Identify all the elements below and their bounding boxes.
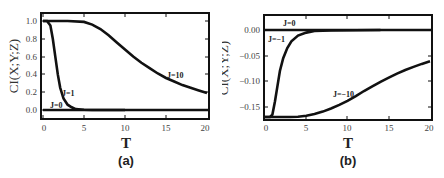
svg-text:20: 20 — [201, 123, 211, 133]
curve-j1-a — [43, 21, 125, 110]
panel-caption-a: (a) — [118, 153, 134, 168]
svg-text:0.00: 0.00 — [244, 25, 260, 35]
y-ticks-a: 1.0 0.8 0.6 0.4 0.2 0.0 — [26, 16, 38, 115]
x-ticks-a: 0 5 10 15 20 — [42, 123, 210, 133]
label-j1-a: J=1 — [62, 89, 75, 98]
svg-text:0.6: 0.6 — [26, 52, 38, 62]
label-jm1-b: J=−1 — [268, 35, 285, 44]
y-axis-label-b: CI(X;Y;Z) — [222, 41, 231, 95]
svg-text:0: 0 — [264, 123, 269, 133]
svg-text:10: 10 — [121, 123, 131, 133]
y-ticks-b: 0.00 −0.05 −0.10 −0.15 — [239, 25, 260, 112]
label-j0-a: J=0 — [50, 101, 63, 110]
chart-panel-b: CI(X;Y;Z) 0.00 −0.05 −0.10 −0.15 0 5 10 … — [222, 0, 444, 178]
y-axis-label-a: CI(X;Y;Z) — [6, 39, 21, 93]
svg-text:0.4: 0.4 — [26, 69, 38, 79]
label-j0-b: J=0 — [283, 19, 296, 28]
svg-text:0: 0 — [42, 123, 47, 133]
chart-panel-a: CI(X;Y;Z) 1.0 0.8 0.6 0.4 0.2 0.0 0 5 10… — [0, 0, 222, 178]
svg-text:0.2: 0.2 — [26, 87, 37, 97]
panel-caption-b: (b) — [340, 153, 357, 168]
x-axis-label-b: T — [343, 135, 353, 151]
svg-text:0.8: 0.8 — [26, 34, 38, 44]
svg-text:−0.05: −0.05 — [239, 51, 260, 61]
svg-text:15: 15 — [162, 123, 172, 133]
svg-text:−0.10: −0.10 — [239, 76, 260, 86]
label-j10-a: J=10 — [167, 71, 184, 80]
x-ticks-b: 0 5 10 15 20 — [264, 123, 434, 133]
svg-text:10: 10 — [343, 123, 353, 133]
svg-text:20: 20 — [425, 123, 435, 133]
svg-text:5: 5 — [304, 123, 309, 133]
svg-text:0.0: 0.0 — [26, 105, 38, 115]
curve-j10-a — [43, 21, 207, 93]
x-axis-label-a: T — [121, 135, 131, 151]
curves-b — [264, 30, 432, 117]
label-jm10-b: J=−10 — [333, 90, 354, 99]
svg-text:5: 5 — [82, 123, 87, 133]
svg-text:15: 15 — [385, 123, 395, 133]
svg-text:1.0: 1.0 — [26, 16, 38, 26]
svg-text:−0.15: −0.15 — [239, 102, 260, 112]
